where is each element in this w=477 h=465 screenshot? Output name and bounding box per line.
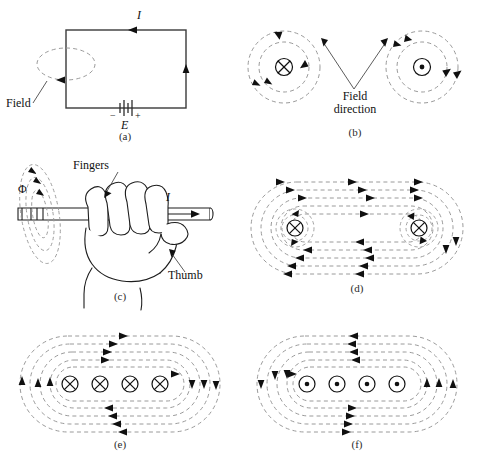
current-out-of-page-symbol-right: [414, 59, 431, 76]
battery-plus-sign: +: [135, 110, 141, 121]
field-direction-arrowhead-right: [381, 38, 389, 47]
magnetic-field-figure: I Field − + E (a): [0, 0, 477, 465]
field-direction-leader-left: [323, 42, 354, 89]
panel-c-label: (c): [100, 290, 140, 302]
panel-a-circuit-loop: I Field − + E (a): [0, 0, 240, 145]
current-out-of-page-symbol-f-3: [359, 376, 375, 392]
panel-c-right-hand-rule: Φ Fingers Thumb I (c): [0, 150, 240, 310]
flux-arrow-2: [33, 177, 41, 184]
field-arrows-e: [19, 333, 220, 436]
panel-a-label: (a): [105, 130, 145, 142]
panel-a-current-label: I: [137, 8, 141, 23]
current-into-page-symbol-e-2: [92, 376, 108, 392]
battery-minus-sign: −: [110, 110, 116, 121]
panel-d-label: (d): [337, 282, 377, 294]
left-wire-group: [248, 31, 320, 103]
current-arrow-top: [128, 27, 137, 34]
panel-e-four-into-page: (e): [0, 322, 240, 465]
panel-c-current-label: I: [166, 190, 170, 205]
field-arrow-right-3: [442, 69, 451, 77]
fingers-label: Fingers: [73, 158, 109, 173]
flux-label: Φ: [18, 182, 27, 197]
current-into-page-symbol-d-2: [411, 220, 427, 236]
circuit-loop-wire: [66, 30, 186, 108]
panel-f-label: (f): [337, 438, 377, 450]
field-arrow-right-4: [453, 71, 462, 80]
panel-b-two-wires: Field direction (b): [237, 0, 477, 145]
field-direction-leader-right: [354, 42, 386, 89]
panel-a-field-label: Field: [6, 96, 31, 111]
current-out-of-page-symbol-f-2: [329, 376, 345, 392]
field-arrow-left-2: [274, 32, 282, 40]
field-arrow-right-2: [404, 35, 412, 42]
field-direction-label-line2: direction: [321, 103, 389, 116]
current-into-page-symbol-e-4: [152, 376, 168, 392]
current-into-page-symbol-d-1: [287, 220, 303, 236]
current-arrow-right: [183, 64, 190, 73]
current-into-page-symbol-left: [276, 59, 293, 76]
field-arrow-left-3: [252, 79, 261, 86]
panel-d-two-into-page: (d): [237, 170, 477, 310]
current-into-page-symbol-e-3: [122, 376, 138, 392]
panel-f-four-out-of-page: (f): [237, 322, 477, 465]
thumb-label: Thumb: [168, 268, 203, 283]
current-out-of-page-symbol-f-1: [299, 376, 315, 392]
field-direction-arrow: [56, 77, 65, 84]
current-into-page-symbol-e-1: [62, 376, 78, 392]
panel-e-label: (e): [100, 438, 140, 450]
panel-b-label: (b): [335, 126, 375, 138]
panel-a-graphic: [0, 0, 240, 145]
field-leader-line: [33, 81, 47, 103]
field-loops-d: [251, 182, 463, 274]
flux-arrow-1: [28, 167, 37, 174]
field-arrow-left-1: [300, 60, 309, 68]
right-wire-group: [386, 31, 462, 103]
panel-b-graphic: [237, 0, 477, 145]
current-out-of-page-symbol-f-4: [389, 376, 405, 392]
field-direction-label-line1: Field: [326, 90, 384, 103]
panel-c-graphic: [0, 150, 240, 310]
flux-arrow-3: [36, 189, 44, 196]
field-direction-arrowhead-left: [321, 38, 328, 47]
field-arrow-right-1: [393, 40, 401, 47]
